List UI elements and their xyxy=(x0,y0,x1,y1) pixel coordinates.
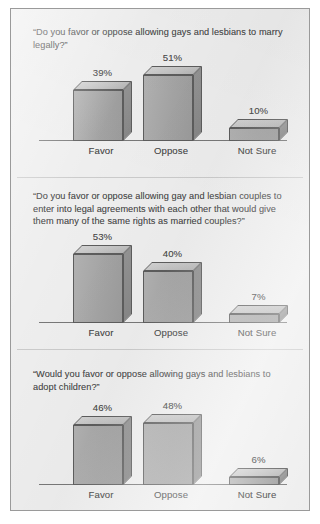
bar-top-face xyxy=(143,414,202,423)
category-label-not-sure: Not Sure xyxy=(221,145,293,156)
bar-front-face xyxy=(229,314,279,323)
bar-front-face xyxy=(229,128,279,141)
category-label-not-sure: Not Sure xyxy=(221,327,293,338)
bar-side-face xyxy=(123,245,132,323)
bar-side-face xyxy=(193,262,202,323)
bar-not-sure xyxy=(229,128,279,141)
bar-front-face xyxy=(73,425,123,485)
bar-side-face xyxy=(123,416,132,485)
bar-top-face xyxy=(229,119,288,128)
bar-value-label: 48% xyxy=(145,400,201,411)
bar-value-label: 10% xyxy=(231,105,287,116)
category-label-not-sure: Not Sure xyxy=(221,489,293,500)
bar-value-label: 40% xyxy=(145,248,201,259)
bar-front-face xyxy=(143,271,193,323)
category-label-oppose: Oppose xyxy=(135,489,207,500)
bar-side-face xyxy=(193,66,202,141)
bar-top-face xyxy=(143,262,202,271)
bar-front-face xyxy=(73,90,123,141)
bar-front-face xyxy=(143,75,193,141)
chart-plot-area: 46%Favor48%Oppose6%Not Sure xyxy=(11,401,309,507)
bar-value-label: 53% xyxy=(75,231,131,242)
bar-front-face xyxy=(229,477,279,485)
chart-title: “Would you favor or oppose allowing gays… xyxy=(33,368,295,393)
bar-favor xyxy=(73,425,123,485)
bar-favor xyxy=(73,90,123,141)
category-label-favor: Favor xyxy=(65,489,137,500)
bar-top-face xyxy=(143,66,202,75)
chart-title: “Do you favor or oppose allowing gays an… xyxy=(33,26,295,51)
chart-plot-area: 53%Favor40%Oppose7%Not Sure xyxy=(11,245,309,345)
bar-value-label: 6% xyxy=(231,454,287,465)
bar-not-sure xyxy=(229,314,279,323)
bar-value-label: 51% xyxy=(145,52,201,63)
bar-side-face xyxy=(123,81,132,141)
bar-front-face xyxy=(73,254,123,323)
bar-not-sure xyxy=(229,477,279,485)
bar-value-label: 46% xyxy=(75,402,131,413)
bar-oppose xyxy=(143,75,193,141)
poll-charts-figure: “Do you favor or oppose allowing gays an… xyxy=(10,8,310,511)
chart-panel-marriage: “Do you favor or oppose allowing gays an… xyxy=(11,9,309,177)
chart-plot-area: 39%Favor51%Oppose10%Not Sure xyxy=(11,53,309,163)
bar-top-face xyxy=(73,245,132,254)
chart-panel-adoption: “Would you favor or oppose allowing gays… xyxy=(11,349,309,511)
bar-top-face xyxy=(73,416,132,425)
category-label-favor: Favor xyxy=(65,145,137,156)
bar-value-label: 39% xyxy=(75,67,131,78)
category-label-favor: Favor xyxy=(65,327,137,338)
bar-oppose xyxy=(143,271,193,323)
bar-front-face xyxy=(143,423,193,485)
chart-title: “Do you favor or oppose allowing gay and… xyxy=(33,190,295,228)
bar-top-face xyxy=(73,81,132,90)
bar-value-label: 7% xyxy=(231,291,287,302)
chart-panel-legal-agreements: “Do you favor or oppose allowing gay and… xyxy=(11,177,309,349)
bar-oppose xyxy=(143,423,193,485)
bar-side-face xyxy=(193,414,202,485)
bar-top-face xyxy=(229,468,288,477)
category-label-oppose: Oppose xyxy=(135,327,207,338)
category-label-oppose: Oppose xyxy=(135,145,207,156)
bar-favor xyxy=(73,254,123,323)
bar-top-face xyxy=(229,305,288,314)
